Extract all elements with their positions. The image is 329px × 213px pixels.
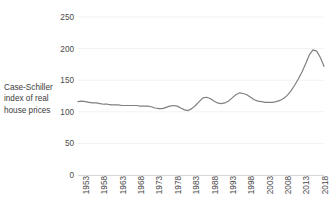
- chart-container: Case-Schiller index of real house prices…: [0, 0, 329, 213]
- y-tick-label: 0: [69, 171, 74, 180]
- x-tick-label: 2003: [266, 176, 275, 194]
- x-tick-label: 1973: [155, 176, 164, 194]
- x-tick-label: 2018: [321, 176, 329, 194]
- x-tick-label: 1983: [192, 176, 201, 194]
- y-tick-label: 150: [60, 76, 74, 85]
- x-tick-label: 1998: [247, 176, 256, 194]
- x-tick-label: 1953: [82, 176, 91, 194]
- x-axis-ticks: 1953195819631968197319781983198819931998…: [78, 176, 324, 213]
- x-tick-label: 1978: [174, 176, 183, 194]
- plot-area: [78, 17, 324, 175]
- x-tick-label: 1963: [119, 176, 128, 194]
- y-tick-label: 50: [65, 139, 74, 148]
- y-axis-ticks: 050100150200250: [52, 17, 74, 175]
- y-tick-label: 100: [60, 107, 74, 116]
- x-tick-label: 1988: [211, 176, 220, 194]
- series-line-chart: [78, 17, 324, 175]
- x-tick-label: 2013: [302, 176, 311, 194]
- y-tick-label: 250: [60, 13, 74, 22]
- x-tick-label: 2008: [284, 176, 293, 194]
- x-tick-label: 1993: [229, 176, 238, 194]
- x-tick-label: 1968: [137, 176, 146, 194]
- x-tick-label: 1958: [100, 176, 109, 194]
- y-tick-label: 200: [60, 44, 74, 53]
